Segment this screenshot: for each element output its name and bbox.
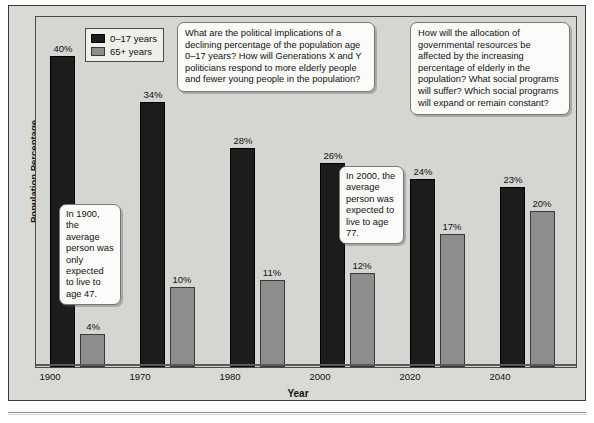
bar-label-1980-0-17: 28% [223, 135, 263, 146]
x-axis-line [36, 364, 576, 366]
bar-1970-65plus[interactable] [170, 287, 195, 367]
bar-label-1900-0-17: 40% [43, 43, 83, 54]
bar-label-2020-65plus: 17% [432, 221, 472, 232]
bar-1980-0-17[interactable] [230, 148, 255, 367]
legend-label-0-17: 0–17 years [110, 33, 157, 44]
legend-item-65plus[interactable]: 65+ years [91, 45, 157, 58]
x-tick-1900: 1900 [15, 371, 85, 382]
bar-1900-65plus[interactable] [80, 334, 105, 367]
x-tick-2040: 2040 [465, 371, 535, 382]
legend-label-65plus: 65+ years [110, 46, 152, 57]
bar-1970-0-17[interactable] [140, 102, 165, 367]
bar-label-2020-0-17: 24% [403, 166, 443, 177]
bar-label-2040-65plus: 20% [522, 198, 562, 209]
page-divider-rule [8, 412, 586, 413]
chart-figure-frame: Population Percentage 40% 4% 34% 10% 28%… [8, 5, 586, 401]
x-tick-1980: 1980 [195, 371, 265, 382]
legend-item-0-17[interactable]: 0–17 years [91, 32, 157, 45]
bar-label-1900-65plus: 4% [73, 321, 113, 332]
annotation-question-right: How will the allocation of governmental … [410, 22, 570, 115]
legend-swatch-gray-icon [91, 47, 105, 56]
x-axis-title: Year [9, 388, 587, 399]
screenshot-root: Population Percentage 40% 4% 34% 10% 28%… [0, 0, 594, 423]
x-tick-1970: 1970 [105, 371, 175, 382]
chart-legend: 0–17 years 65+ years [85, 28, 164, 62]
bar-2040-65plus[interactable] [530, 211, 555, 367]
bar-label-1980-65plus: 11% [252, 267, 292, 278]
bar-label-1970-0-17: 34% [133, 89, 173, 100]
x-tick-2000: 2000 [285, 371, 355, 382]
bar-2020-0-17[interactable] [410, 179, 435, 367]
bar-1980-65plus[interactable] [260, 280, 285, 367]
bar-2020-65plus[interactable] [440, 234, 465, 367]
bar-2040-0-17[interactable] [500, 187, 525, 367]
x-tick-2020: 2020 [375, 371, 445, 382]
page-divider-rule-shadow [8, 414, 586, 415]
annotation-question-left: What are the political implications of a… [177, 22, 375, 92]
legend-swatch-dark-icon [91, 34, 105, 43]
bar-label-2000-0-17: 26% [313, 150, 353, 161]
bar-2000-65plus[interactable] [350, 273, 375, 367]
bar-label-1970-65plus: 10% [162, 274, 202, 285]
bar-label-2000-65plus: 12% [342, 260, 382, 271]
annotation-callout-1900: In 1900, the average person was only exp… [59, 204, 121, 305]
annotation-callout-2000: In 2000, the average person was expected… [339, 166, 404, 244]
bar-label-2040-0-17: 23% [493, 174, 533, 185]
